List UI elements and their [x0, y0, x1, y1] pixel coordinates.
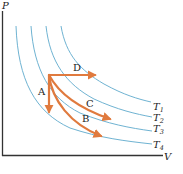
isotherm-t2 — [46, 26, 152, 117]
process-label-c: C — [86, 98, 94, 109]
process-label-b: B — [82, 113, 89, 124]
x-axis-label: V — [164, 151, 173, 162]
pv-diagram: P V T1 T2 T3 T4 D A C B — [0, 0, 183, 174]
axes: P V — [1, 0, 173, 162]
process-arrows — [49, 75, 110, 136]
process-label-d: D — [73, 62, 81, 73]
process-label-a: A — [37, 86, 46, 97]
y-axis-label: P — [1, 0, 9, 11]
isotherm-label-t4: T4 — [153, 139, 164, 152]
isotherm-labels: T1 T2 T3 T4 — [153, 101, 164, 152]
